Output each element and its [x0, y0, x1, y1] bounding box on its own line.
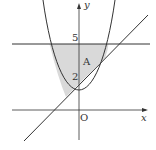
x-axis-label: x [141, 113, 147, 123]
tick-label-5: 5 [72, 33, 78, 43]
tick-label-2: 2 [72, 72, 78, 82]
y-axis-arrow-icon [77, 3, 81, 9]
y-axis-label: y [84, 0, 90, 10]
graph-diagram: y x O 5 2 A [0, 0, 156, 150]
region-a-label: A [83, 57, 90, 67]
origin-label: O [80, 113, 88, 123]
